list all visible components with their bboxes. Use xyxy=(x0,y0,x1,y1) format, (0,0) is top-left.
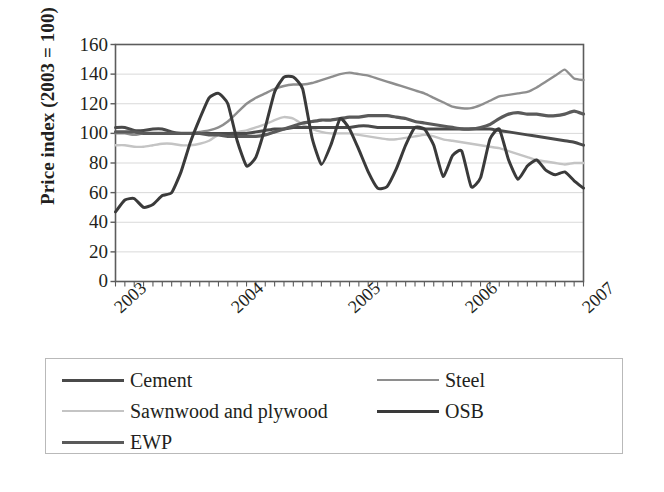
legend-label-ewp: EWP xyxy=(130,432,172,452)
price-index-figure: Price index (2003 = 100) 160 140 120 100… xyxy=(0,0,664,492)
legend-item-steel: Steel xyxy=(377,367,485,393)
legend-label-steel: Steel xyxy=(445,370,485,390)
y-tick-0: 0 xyxy=(62,270,108,292)
y-tick-120: 120 xyxy=(62,93,108,115)
legend-swatch-steel xyxy=(377,379,439,381)
legend-label-cement: Cement xyxy=(130,370,192,390)
legend-swatch-osb xyxy=(377,410,439,413)
legend-item-osb: OSB xyxy=(377,398,484,424)
chart-legend: Cement Steel Sawnwood and plywood OSB EW… xyxy=(45,358,623,454)
legend-item-ewp: EWP xyxy=(62,429,172,455)
legend-item-sawnwood-and-plywood: Sawnwood and plywood xyxy=(62,398,328,424)
y-tick-80: 80 xyxy=(62,152,108,174)
series-line-steel xyxy=(116,70,584,135)
chart-plot-area: Price index (2003 = 100) 160 140 120 100… xyxy=(0,0,664,350)
y-tick-60: 60 xyxy=(62,182,108,204)
legend-label-osb: OSB xyxy=(445,401,484,421)
y-tick-40: 40 xyxy=(62,211,108,233)
legend-label-sawnwood-and-plywood: Sawnwood and plywood xyxy=(130,401,328,421)
y-axis-title: Price index (2003 = 100) xyxy=(37,0,59,231)
y-tick-20: 20 xyxy=(62,241,108,263)
y-tick-160: 160 xyxy=(62,34,108,56)
series-line-osb xyxy=(116,76,584,212)
legend-swatch-sawnwood-and-plywood xyxy=(62,410,124,412)
legend-swatch-cement xyxy=(62,379,124,382)
legend-item-cement: Cement xyxy=(62,367,192,393)
y-tick-140: 140 xyxy=(62,63,108,85)
y-tick-100: 100 xyxy=(62,122,108,144)
legend-swatch-ewp xyxy=(62,441,124,444)
